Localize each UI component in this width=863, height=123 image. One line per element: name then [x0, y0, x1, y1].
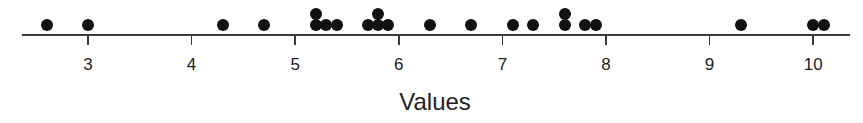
x-tick-label: 3 [83, 55, 92, 75]
data-point [818, 19, 830, 31]
data-point [331, 19, 343, 31]
x-tick [191, 35, 193, 45]
x-tick-label: 5 [290, 55, 299, 75]
x-tick [294, 35, 296, 45]
data-point [217, 19, 229, 31]
x-axis-line [22, 34, 850, 36]
data-point [735, 19, 747, 31]
data-point [258, 19, 270, 31]
x-tick [502, 35, 504, 45]
x-tick [709, 35, 711, 45]
data-point [559, 19, 571, 31]
data-point [382, 19, 394, 31]
x-tick [398, 35, 400, 45]
x-axis-title: Values [399, 88, 471, 116]
data-point [559, 8, 571, 20]
data-point [507, 19, 519, 31]
x-tick-label: 8 [601, 55, 610, 75]
x-tick-label: 4 [187, 55, 196, 75]
dot-plot: 345678910 Values [0, 0, 863, 123]
x-tick-label: 9 [705, 55, 714, 75]
data-point [424, 19, 436, 31]
data-point [372, 8, 384, 20]
x-tick-label: 7 [498, 55, 507, 75]
x-tick-label: 10 [804, 55, 823, 75]
x-tick [812, 35, 814, 45]
data-point [310, 8, 322, 20]
data-point [527, 19, 539, 31]
data-point [82, 19, 94, 31]
data-point [590, 19, 602, 31]
data-point [465, 19, 477, 31]
x-tick-label: 6 [394, 55, 403, 75]
data-point [41, 19, 53, 31]
x-tick [87, 35, 89, 45]
x-tick [605, 35, 607, 45]
